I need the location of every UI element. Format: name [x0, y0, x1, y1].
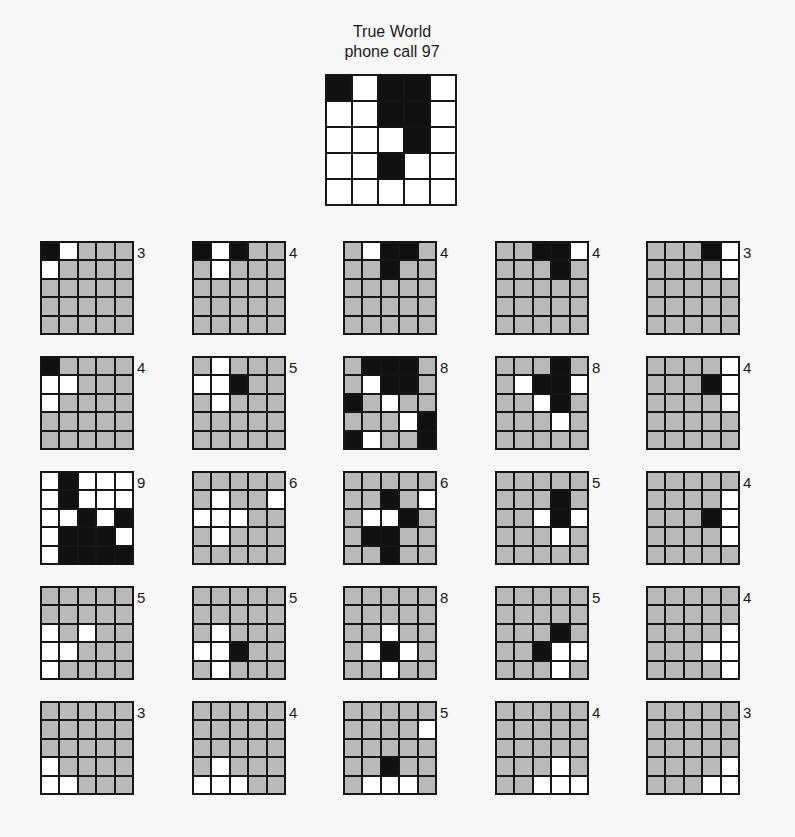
grid-cell [97, 740, 113, 756]
grid-count-label: 5 [592, 590, 600, 606]
grid-cell [249, 662, 265, 678]
grid-cell [703, 721, 719, 737]
grid-cell [249, 473, 265, 489]
grid-cell [212, 376, 228, 392]
grid-cell [534, 547, 550, 563]
grid-cell [382, 413, 398, 429]
grid-cell [60, 740, 76, 756]
grid-cell [648, 643, 664, 659]
grid-cell [231, 721, 247, 737]
grid-cell [497, 261, 513, 277]
grid-cell [534, 317, 550, 333]
grid-cell [722, 491, 738, 507]
grid-cell [666, 740, 682, 756]
grid-cell [116, 547, 132, 563]
grid-cell [497, 643, 513, 659]
grid-cell [497, 376, 513, 392]
grid-cell [648, 376, 664, 392]
grid-cell [648, 703, 664, 719]
grid-cell [497, 473, 513, 489]
grid-cell [212, 528, 228, 544]
grid-cell [97, 588, 113, 604]
grid-cell [79, 625, 95, 641]
grid-cell [552, 777, 568, 793]
grid-cell [345, 588, 361, 604]
grid-cell [400, 432, 416, 448]
grid-cell [419, 606, 435, 622]
grid-cell [534, 643, 550, 659]
grid-cell [382, 261, 398, 277]
grid-cell [345, 243, 361, 259]
belief-grid [40, 701, 134, 795]
grid-cell [194, 528, 210, 544]
grid-cell [97, 721, 113, 737]
grid-cell [382, 528, 398, 544]
grid-cell [571, 432, 587, 448]
grid-cell [268, 243, 284, 259]
figure-title: True World phone call 97 [290, 22, 494, 62]
grid-cell [60, 261, 76, 277]
grid-cell [666, 317, 682, 333]
grid-cell [419, 721, 435, 737]
grid-cell [249, 395, 265, 411]
grid-cell [79, 721, 95, 737]
grid-cell [685, 606, 701, 622]
grid-cell [249, 298, 265, 314]
grid-cell [79, 740, 95, 756]
grid-cell [400, 280, 416, 296]
title-line-2: phone call 97 [290, 42, 494, 62]
belief-grid [495, 241, 589, 335]
grid-cell [42, 662, 58, 678]
grid-cell [116, 473, 132, 489]
grid-cell [363, 395, 379, 411]
grid-cell [552, 376, 568, 392]
grid-cell [382, 473, 398, 489]
grid-cell [363, 243, 379, 259]
grid-cell [648, 777, 664, 793]
grid-cell [212, 298, 228, 314]
grid-cell [60, 432, 76, 448]
grid-cell [703, 606, 719, 622]
grid-cell [194, 547, 210, 563]
grid-cell [400, 662, 416, 678]
grid-cell [194, 758, 210, 774]
grid-cell [42, 317, 58, 333]
grid-cell [552, 625, 568, 641]
belief-grid [495, 471, 589, 565]
grid-cell [363, 643, 379, 659]
grid-cell [353, 154, 377, 178]
grid-cell [231, 395, 247, 411]
grid-cell [345, 376, 361, 392]
grid-cell [268, 528, 284, 544]
grid-cell [268, 432, 284, 448]
grid-cell [268, 662, 284, 678]
grid-cell [345, 758, 361, 774]
grid-cell [419, 317, 435, 333]
grid-cell [497, 777, 513, 793]
grid-cell [515, 703, 531, 719]
grid-cell [400, 528, 416, 544]
grid-cell [249, 432, 265, 448]
grid-cell [268, 473, 284, 489]
grid-cell [722, 473, 738, 489]
belief-grid [495, 701, 589, 795]
grid-cell [534, 740, 550, 756]
grid-cell [571, 643, 587, 659]
grid-cell [685, 662, 701, 678]
grid-cell [60, 547, 76, 563]
grid-cell [249, 703, 265, 719]
grid-cell [97, 643, 113, 659]
grid-cell [249, 376, 265, 392]
grid-cell [268, 395, 284, 411]
grid-cell [249, 317, 265, 333]
grid-cell [382, 376, 398, 392]
grid-count-label: 5 [592, 475, 600, 491]
grid-cell [249, 721, 265, 737]
grid-cell [552, 547, 568, 563]
grid-cell [515, 721, 531, 737]
grid-cell [666, 721, 682, 737]
grid-cell [194, 625, 210, 641]
grid-cell [79, 376, 95, 392]
grid-cell [60, 777, 76, 793]
grid-cell [79, 662, 95, 678]
